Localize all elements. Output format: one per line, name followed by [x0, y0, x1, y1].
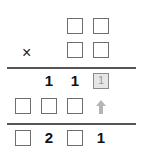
partial2-hundreds-box[interactable] [41, 98, 57, 114]
partial2-thousands-box[interactable] [15, 98, 31, 114]
first-divider-line [7, 67, 136, 69]
multiplicand-tens-box[interactable] [67, 18, 83, 34]
multiply-sign: × [22, 44, 31, 62]
result-digit-ones: 1 [93, 129, 109, 147]
result-thousands-box[interactable] [15, 130, 31, 146]
partial1-digit-tens: 1 [67, 72, 83, 90]
result-tens-box[interactable] [67, 130, 83, 146]
multiplier-ones-box[interactable] [93, 42, 109, 58]
partial1-hint-box: 1 [93, 73, 109, 89]
up-arrow-icon [93, 99, 109, 115]
result-digit-hundreds: 2 [41, 129, 57, 147]
partial2-tens-box[interactable] [67, 98, 83, 114]
second-divider-line [7, 123, 136, 125]
multiplicand-ones-box[interactable] [93, 18, 109, 34]
multiplier-tens-box[interactable] [67, 42, 83, 58]
partial1-digit-hundreds: 1 [41, 72, 57, 90]
